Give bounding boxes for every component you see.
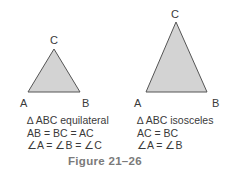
left-vertex-a-label: A	[20, 98, 27, 109]
right-vertex-c-label: C	[171, 9, 179, 20]
right-description-title: ∆ ABC isosceles	[137, 115, 213, 126]
left-description-sides: AB = BC = AC	[27, 128, 94, 139]
right-description-angles: ∠A = ∠B	[137, 140, 182, 151]
right-description-sides: AC = BC	[137, 128, 178, 139]
left-description-title: ∆ ABC equilateral	[27, 115, 109, 126]
equilateral-triangle	[28, 49, 80, 92]
right-vertex-a-label: A	[134, 98, 141, 109]
right-vertex-b-label: B	[212, 98, 219, 109]
isosceles-triangle	[146, 22, 207, 92]
figure-caption: Figure 21–26	[68, 156, 142, 168]
left-description-angles: ∠A = ∠B = ∠C	[27, 140, 102, 151]
left-vertex-c-label: C	[50, 35, 58, 46]
left-vertex-b-label: B	[82, 98, 89, 109]
